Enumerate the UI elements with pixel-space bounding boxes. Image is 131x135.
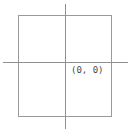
origin-label: (0, 0)	[71, 64, 104, 76]
figure-canvas: (0, 0)	[0, 0, 131, 135]
x-axis-line	[3, 62, 128, 63]
y-axis-line	[65, 4, 66, 129]
